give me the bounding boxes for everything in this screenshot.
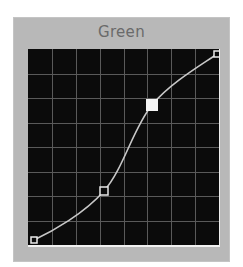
grid-lines <box>28 49 219 245</box>
curve-graph[interactable] <box>28 49 220 247</box>
control-point-point-upper[interactable] <box>146 99 158 111</box>
channel-title: Green <box>13 23 230 41</box>
control-point-point-black[interactable] <box>31 237 37 243</box>
curves-panel: Green <box>13 17 230 262</box>
control-point-point-lower[interactable] <box>100 187 108 195</box>
control-point-point-white[interactable] <box>214 51 219 57</box>
curve-canvas[interactable] <box>28 49 219 245</box>
